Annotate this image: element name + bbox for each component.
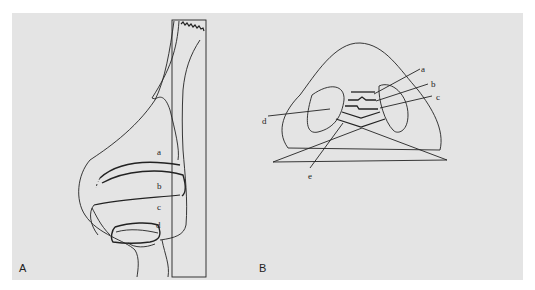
svg-text:b: b	[431, 79, 436, 89]
nose-anatomy-diagram: a b c d a b c d e A B	[0, 0, 535, 290]
panel-a-frame	[172, 20, 206, 277]
svg-text:a: a	[157, 147, 161, 157]
svg-text:A: A	[19, 262, 27, 274]
svg-text:d: d	[262, 116, 267, 126]
svg-text:a: a	[421, 64, 425, 74]
svg-text:b: b	[157, 181, 162, 191]
svg-text:c: c	[436, 92, 440, 102]
svg-text:B: B	[259, 262, 266, 274]
panel-a-lateral-view	[79, 20, 206, 277]
svg-text:e: e	[308, 171, 312, 181]
svg-text:c: c	[157, 202, 161, 212]
svg-text:d: d	[156, 220, 161, 230]
panel-b-basal-view	[268, 43, 447, 168]
